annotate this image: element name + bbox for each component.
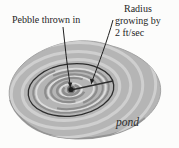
pebble-label: Pebble thrown in — [12, 14, 80, 25]
radius-label-line-2: growing by — [115, 15, 161, 26]
pond-diagram: Pebble thrown in Radius growing by 2 ft/… — [0, 0, 179, 148]
pebble-point — [68, 87, 73, 92]
pond-label: pond — [115, 116, 139, 129]
radius-label-line-3: 2 ft/sec — [115, 27, 145, 38]
radius-label-line-1: Radius — [124, 3, 152, 14]
figure-pond-ripples: Pebble thrown in Radius growing by 2 ft/… — [0, 0, 179, 148]
